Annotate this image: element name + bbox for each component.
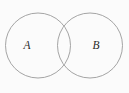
set-label-b: B [92,39,99,51]
set-label-a: A [22,39,31,51]
venn-canvas: A B [0,0,129,93]
diagram-background [0,0,129,93]
venn-diagram: A B [0,0,129,93]
